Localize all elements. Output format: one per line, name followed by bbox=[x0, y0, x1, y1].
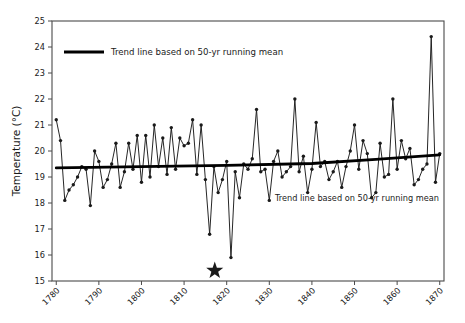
data-point bbox=[225, 160, 228, 163]
y-tick-label: 15 bbox=[35, 276, 45, 286]
data-point bbox=[208, 233, 211, 236]
data-point bbox=[182, 144, 185, 147]
x-tick-label: 1800 bbox=[125, 285, 147, 307]
data-point bbox=[353, 123, 356, 126]
data-point bbox=[238, 196, 241, 199]
data-point bbox=[229, 256, 232, 259]
data-point bbox=[425, 162, 428, 165]
data-point bbox=[161, 136, 164, 139]
legend-entry-label: Trend line based on 50-yr running mean bbox=[110, 47, 283, 57]
data-point bbox=[344, 165, 347, 168]
y-tick-label: 17 bbox=[35, 224, 45, 234]
data-point bbox=[357, 168, 360, 171]
data-point bbox=[383, 175, 386, 178]
data-point bbox=[251, 157, 254, 160]
data-point bbox=[276, 149, 279, 152]
data-point bbox=[153, 123, 156, 126]
data-point bbox=[302, 155, 305, 158]
data-point bbox=[178, 136, 181, 139]
x-tick-label: 1840 bbox=[296, 285, 318, 307]
data-point bbox=[387, 173, 390, 176]
data-point bbox=[391, 97, 394, 100]
data-point bbox=[170, 126, 173, 129]
data-point bbox=[412, 183, 415, 186]
data-point bbox=[378, 142, 381, 145]
data-point bbox=[280, 175, 283, 178]
y-axis-title: Temperature (°C) bbox=[10, 106, 22, 198]
data-point bbox=[76, 175, 79, 178]
x-tick-label: 1870 bbox=[423, 285, 445, 307]
data-point bbox=[400, 139, 403, 142]
y-tick-label: 18 bbox=[35, 198, 45, 208]
data-point bbox=[417, 178, 420, 181]
x-tick-label: 1860 bbox=[381, 285, 403, 307]
data-point bbox=[221, 178, 224, 181]
data-point bbox=[199, 123, 202, 126]
data-point bbox=[72, 183, 75, 186]
chart-figure: 1516171819202122232425 17801790180018101… bbox=[0, 0, 465, 323]
data-point bbox=[259, 170, 262, 173]
data-point bbox=[118, 186, 121, 189]
x-tick-label: 1820 bbox=[210, 285, 232, 307]
data-point bbox=[310, 168, 313, 171]
data-point bbox=[246, 168, 249, 171]
data-point bbox=[110, 162, 113, 165]
data-point bbox=[293, 97, 296, 100]
data-point bbox=[127, 142, 130, 145]
x-axis-ticks: 1780179018001810182018301840185018601870 bbox=[40, 281, 445, 307]
x-tick-label: 1830 bbox=[253, 285, 275, 307]
x-tick-label: 1810 bbox=[168, 285, 190, 307]
data-point bbox=[187, 142, 190, 145]
data-point bbox=[340, 186, 343, 189]
x-tick-label: 1790 bbox=[82, 285, 104, 307]
y-tick-label: 19 bbox=[35, 172, 45, 182]
data-point bbox=[106, 178, 109, 181]
data-point bbox=[97, 160, 100, 163]
data-point bbox=[314, 121, 317, 124]
data-point bbox=[148, 175, 151, 178]
data-point bbox=[234, 170, 237, 173]
data-point bbox=[285, 170, 288, 173]
data-point bbox=[327, 178, 330, 181]
data-point bbox=[395, 168, 398, 171]
data-point bbox=[297, 170, 300, 173]
data-point bbox=[101, 186, 104, 189]
data-point bbox=[195, 173, 198, 176]
data-point bbox=[430, 35, 433, 38]
data-point bbox=[268, 199, 271, 202]
data-point bbox=[140, 181, 143, 184]
data-point bbox=[332, 170, 335, 173]
data-point bbox=[55, 118, 58, 121]
data-point bbox=[204, 178, 207, 181]
data-point bbox=[114, 142, 117, 145]
data-point bbox=[366, 152, 369, 155]
y-axis-ticks: 1516171819202122232425 bbox=[35, 16, 52, 286]
data-point bbox=[144, 134, 147, 137]
y-tick-label: 21 bbox=[35, 120, 45, 130]
data-point bbox=[63, 199, 66, 202]
plot-area-border bbox=[52, 21, 444, 281]
data-point bbox=[216, 191, 219, 194]
data-point bbox=[289, 165, 292, 168]
y-tick-label: 24 bbox=[35, 42, 45, 52]
y-tick-label: 20 bbox=[35, 146, 45, 156]
data-point bbox=[136, 134, 139, 137]
data-point bbox=[59, 139, 62, 142]
data-point bbox=[319, 165, 322, 168]
data-point bbox=[165, 173, 168, 176]
data-point bbox=[434, 181, 437, 184]
plot-frame bbox=[52, 21, 444, 281]
trend-line-annotation: Trend line based on 50-yr running mean bbox=[274, 193, 439, 203]
x-tick-label: 1850 bbox=[338, 285, 360, 307]
y-tick-label: 23 bbox=[35, 68, 45, 78]
data-point bbox=[349, 149, 352, 152]
data-point bbox=[255, 108, 258, 111]
chart-annotation: Trend line based on 50-yr running mean bbox=[274, 193, 439, 203]
data-point bbox=[361, 139, 364, 142]
data-point bbox=[272, 160, 275, 163]
data-point bbox=[89, 204, 92, 207]
data-point bbox=[421, 168, 424, 171]
data-point bbox=[263, 168, 266, 171]
data-point bbox=[67, 188, 70, 191]
data-point bbox=[123, 170, 126, 173]
